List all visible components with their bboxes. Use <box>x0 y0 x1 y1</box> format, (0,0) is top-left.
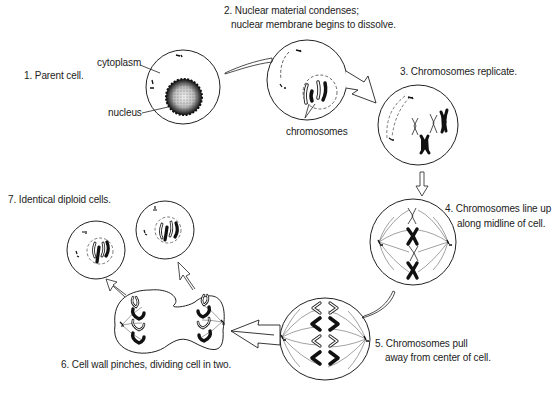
stage-7-label: 7. Identical diploid cells. <box>8 193 111 206</box>
stage-4-label-line1: 4. Chromosomes line up <box>445 202 551 215</box>
centriole-icon <box>176 55 182 57</box>
cytoplasm-pointer <box>140 65 160 73</box>
cell-stage-1 <box>140 50 220 124</box>
arrow-2-to-3 <box>346 71 376 103</box>
mitosis-diagram: 1. Parent cell. cytoplasm nucleus 2. Nuc… <box>0 0 552 402</box>
cell-stage-2 <box>267 40 347 120</box>
arrow-1-to-2 <box>225 58 272 74</box>
arrow-6-to-7a <box>106 279 126 297</box>
cell-stage-5 <box>280 298 370 380</box>
stage-4-label-line2: along midline of cell. <box>457 217 545 230</box>
cytoplasm-label: cytoplasm <box>97 56 141 69</box>
stage-3-label: 3. Chromosomes replicate. <box>400 65 517 78</box>
cell-stage-3 <box>378 85 458 165</box>
stage-2-label-line1: 2. Nuclear material condenses; <box>224 4 359 17</box>
cell-stage-7-right <box>136 201 194 259</box>
arrow-4-to-5 <box>362 291 395 318</box>
centriole-icon <box>150 80 154 88</box>
cell-stage-7-left <box>67 221 125 279</box>
arrow-6-to-7b <box>178 262 195 290</box>
nucleus-pointer <box>142 107 168 113</box>
chromosomes-label: chromosomes <box>286 125 348 138</box>
nucleus-label: nucleus <box>108 106 142 119</box>
arrow-3-to-4 <box>416 172 428 196</box>
stage-1-label: 1. Parent cell. <box>24 69 84 82</box>
cell-stage-6 <box>115 290 225 353</box>
stage-6-label: 6. Cell wall pinches, dividing cell in t… <box>61 358 231 371</box>
stage-5-label-line2: away from center of cell. <box>385 351 491 364</box>
arrow-5-to-6 <box>231 320 280 348</box>
stage-2-label-line2: nuclear membrane begins to dissolve. <box>231 18 396 31</box>
cell-stage-4 <box>370 199 456 285</box>
stage-5-label-line1: 5. Chromosomes pull <box>375 337 468 350</box>
